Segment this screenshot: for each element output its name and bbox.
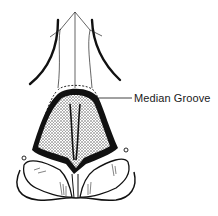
- right-side-mark: [124, 148, 128, 152]
- left-side-mark: [22, 156, 26, 160]
- nose-anatomy-diagram: Median Groove: [0, 0, 218, 216]
- diagram-drawing: [0, 0, 218, 216]
- median-groove-label: Median Groove: [134, 92, 211, 104]
- columella: [72, 174, 78, 198]
